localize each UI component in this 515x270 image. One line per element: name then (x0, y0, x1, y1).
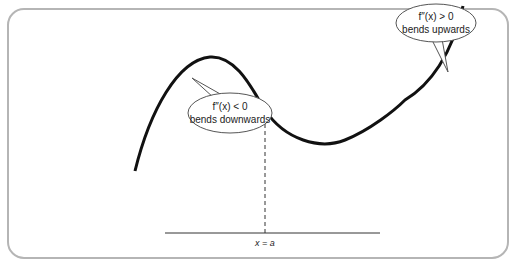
callout-convex-math: f″(x) > 0 (419, 11, 454, 22)
callout-concave-down: f″(x) < 0 bends downwards (188, 78, 272, 133)
callout-concave-text: bends downwards (190, 114, 271, 125)
frame (8, 9, 508, 258)
axis-label-x-equals-a: x = a (254, 238, 275, 248)
callout-concave-up: f″(x) > 0 bends upwards (396, 4, 476, 72)
callout-concave-math: f″(x) < 0 (213, 101, 248, 112)
concavity-diagram: f″(x) < 0 bends downwards f″(x) > 0 bend… (0, 0, 515, 270)
callout-convex-text: bends upwards (402, 24, 470, 35)
